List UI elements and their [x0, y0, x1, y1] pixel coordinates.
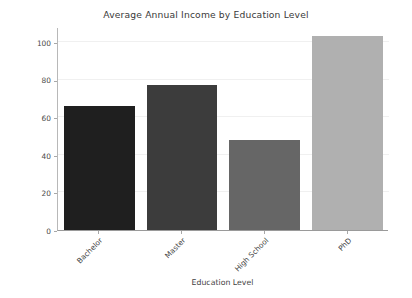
plot-area: [57, 28, 388, 231]
y-tick-label: 0: [17, 227, 51, 236]
x-tick-label: Master: [143, 236, 188, 281]
x-tick-mark: [98, 231, 99, 234]
y-tick-mark: [54, 193, 57, 194]
x-tick-mark: [181, 231, 182, 234]
y-axis-label-container: Average Annual Income: [18, 28, 28, 231]
y-tick-mark: [54, 231, 57, 232]
y-tick-mark: [54, 156, 57, 157]
y-tick-label: 80: [17, 76, 51, 85]
y-tick-mark: [54, 118, 57, 119]
bar-series: [58, 27, 389, 230]
x-tick-label: PhD: [308, 236, 353, 281]
y-tick-label: 40: [17, 152, 51, 161]
x-tick-label: Bachelor: [60, 236, 105, 281]
bar: [147, 85, 218, 230]
bar: [64, 106, 135, 230]
chart-title: Average Annual Income by Education Level: [0, 9, 412, 20]
x-tick-mark: [347, 231, 348, 234]
y-tick-mark: [54, 43, 57, 44]
bar: [312, 36, 383, 230]
x-axis-label: Education Level: [57, 278, 388, 287]
x-tick-mark: [264, 231, 265, 234]
y-tick-label: 100: [17, 39, 51, 48]
x-tick-label: High School: [226, 236, 271, 281]
chart-figure: Average Annual Income by Education Level…: [0, 0, 412, 298]
y-tick-label: 20: [17, 189, 51, 198]
bar: [229, 140, 300, 230]
y-tick-mark: [54, 81, 57, 82]
y-tick-label: 60: [17, 114, 51, 123]
